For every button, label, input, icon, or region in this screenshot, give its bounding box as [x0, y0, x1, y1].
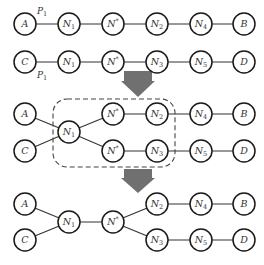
- path-labels: P1P1: [36, 6, 47, 82]
- node-n5: N5: [190, 51, 212, 73]
- down-arrow-icon: [121, 169, 155, 193]
- node-n3: N3: [146, 229, 168, 251]
- node-n4: N4: [190, 193, 212, 215]
- path-label: P1: [36, 70, 47, 82]
- node-n4: N4: [190, 13, 212, 35]
- node-label: D: [239, 56, 248, 67]
- node-label: C: [21, 56, 29, 67]
- node-b: B: [233, 13, 255, 35]
- node-label: B: [240, 198, 248, 209]
- node-a: A: [14, 13, 36, 35]
- node-ns: N*: [102, 211, 124, 233]
- node-c: C: [14, 51, 36, 73]
- node-n4: N4: [190, 103, 212, 125]
- node-n5: N5: [190, 229, 212, 251]
- node-n1a: N1: [58, 13, 80, 35]
- node-a: A: [14, 103, 36, 125]
- node-label: C: [21, 145, 29, 156]
- node-n5: N5: [190, 140, 212, 162]
- path-merge-diagram: AN1N*N2N4BCN1N*N3N5DACN1N*N*N2N3N4N5BDAC…: [0, 0, 264, 265]
- node-n1b: N1: [58, 51, 80, 73]
- down-arrow-icon: [121, 71, 155, 97]
- transition-arrows: [121, 71, 155, 193]
- node-c: C: [14, 140, 36, 162]
- node-d: D: [233, 140, 255, 162]
- path-label: P1: [36, 6, 47, 18]
- node-c: C: [14, 229, 36, 251]
- node-label: B: [240, 108, 248, 119]
- node-label: C: [21, 234, 29, 245]
- node-a: A: [14, 193, 36, 215]
- node-label: A: [21, 198, 29, 209]
- node-label: D: [239, 145, 248, 156]
- node-n3: N3: [146, 51, 168, 73]
- node-n3: N3: [146, 140, 168, 162]
- node-n1: N1: [58, 211, 80, 233]
- node-nsa: N*: [102, 13, 124, 35]
- node-label: A: [21, 108, 29, 119]
- node-n2: N2: [146, 103, 168, 125]
- node-n1: N1: [58, 121, 80, 143]
- node-nsa: N*: [102, 103, 124, 125]
- node-d: D: [233, 51, 255, 73]
- node-d: D: [233, 229, 255, 251]
- node-label: D: [239, 234, 248, 245]
- node-nsb: N*: [102, 140, 124, 162]
- node-n2: N2: [146, 193, 168, 215]
- nodes: AN1N*N2N4BCN1N*N3N5DACN1N*N*N2N3N4N5BDAC…: [14, 13, 255, 251]
- node-b: B: [233, 193, 255, 215]
- node-n2: N2: [146, 13, 168, 35]
- node-label: B: [240, 18, 248, 29]
- node-label: A: [21, 18, 29, 29]
- node-b: B: [233, 103, 255, 125]
- node-nsb: N*: [102, 51, 124, 73]
